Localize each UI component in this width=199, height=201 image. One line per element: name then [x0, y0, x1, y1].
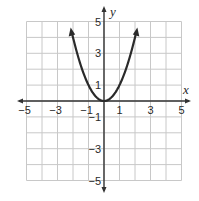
parabola-graph: −5−3−1135531−1−3−5 x y [0, 0, 199, 201]
y-tick-label: 1 [95, 79, 101, 91]
y-tick-label: −3 [88, 143, 101, 155]
y-tick-label: −1 [88, 111, 101, 123]
y-tick-label: 3 [95, 47, 101, 59]
x-tick-label: −3 [49, 104, 62, 116]
x-axis-label: x [182, 82, 189, 97]
x-tick-label: 1 [116, 104, 122, 116]
y-axis-label: y [108, 4, 116, 19]
x-tick-label: −5 [18, 104, 31, 116]
x-tick-label: 5 [178, 104, 184, 116]
y-tick-label: 5 [95, 16, 101, 28]
y-tick-label: −5 [88, 175, 101, 187]
x-tick-label: 3 [147, 104, 153, 116]
